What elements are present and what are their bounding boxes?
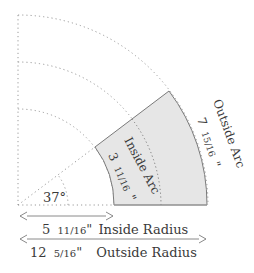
outside-arc-whole: 7 <box>194 116 210 128</box>
outside-radius-whole: 12 <box>30 245 47 260</box>
outside-radius-fraction: 5/16 <box>54 248 76 259</box>
inside-radius-unit: " <box>86 222 92 237</box>
inside-radius-whole: 5 <box>42 222 50 237</box>
angle-label: 37° <box>43 190 66 205</box>
outside-radius-label: 12 5/16" Outside Radius <box>30 245 197 260</box>
inside-radius-arrow <box>20 212 113 220</box>
outside-arc-fraction: 15/16 <box>200 130 218 158</box>
inside-radius-fraction: 11/16 <box>57 225 86 236</box>
outside-radius-text: Outside Radius <box>96 245 197 260</box>
outside-radius-unit: " <box>76 245 82 260</box>
inside-radius-text: Inside Radius <box>98 222 188 237</box>
inside-radius-label: 5 11/16" Inside Radius <box>42 222 188 237</box>
outside-arc-unit: " <box>208 160 223 170</box>
arc-diagram: 37° Inside Arc 3 11/16 " Outside Arc 7 1… <box>0 0 254 273</box>
